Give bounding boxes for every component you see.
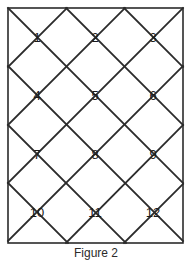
diamond-cell-8: 8: [75, 147, 115, 163]
diamond-cell-12: 12: [133, 205, 173, 221]
diamond-cell-6: 6: [133, 88, 173, 104]
diamond-cell-7: 7: [17, 147, 57, 163]
diamond-cell-10: 10: [17, 205, 57, 221]
diamond-cell-5: 5: [75, 88, 115, 104]
diamond-cell-1: 1: [17, 30, 57, 46]
diamond-cell-4: 4: [17, 88, 57, 104]
diamond-cell-2: 2: [75, 30, 115, 46]
diamond-cell-3: 3: [133, 30, 173, 46]
diamond-cell-11: 11: [75, 205, 115, 221]
diamond-cell-9: 9: [133, 147, 173, 163]
figure-caption: Figure 2: [0, 246, 192, 260]
